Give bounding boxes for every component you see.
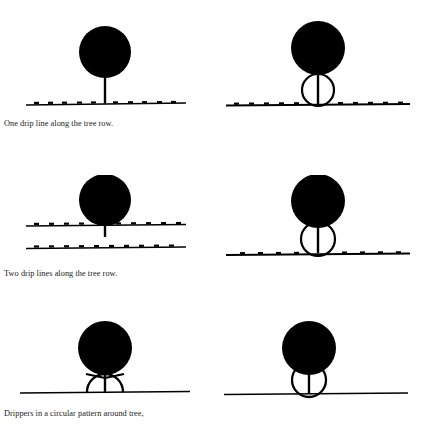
caption-line: Two drip lines along the tree row. bbox=[4, 269, 117, 278]
panel-drippers-flexion-lateral: Drippers in a circular pattern around tr… bbox=[212, 175, 424, 320]
caption-line: One drip line along the tree row. bbox=[4, 119, 113, 128]
tree-canopy-icon bbox=[79, 175, 131, 226]
panel-caption: One drip line along the tree row. bbox=[4, 118, 210, 129]
lateral-line-icon bbox=[224, 393, 408, 395]
tree-canopy-icon bbox=[282, 321, 336, 375]
lateral-line-icon bbox=[226, 254, 410, 256]
diagram-drippers-flexion-lateral bbox=[212, 175, 424, 265]
panel-caption: Drippers in a circular pattern around tr… bbox=[4, 408, 210, 419]
panel-micro-sprinklers: Micro sprinklers around tree, connected … bbox=[212, 320, 424, 429]
caption-line: Drippers in a circular pattern around tr… bbox=[4, 409, 144, 418]
diagram-micro-sprinklers bbox=[212, 320, 424, 408]
diagram-drippers-circular-arc bbox=[0, 320, 212, 408]
diagram-drippers-circular-two-points bbox=[212, 0, 424, 115]
panel-caption: Two drip lines along the tree row. bbox=[4, 268, 210, 279]
lateral-line-icon bbox=[20, 392, 190, 394]
tree-canopy-icon bbox=[291, 175, 345, 228]
tree-canopy-icon bbox=[78, 321, 132, 375]
panel-drippers-circular-arc: Drippers in a circular pattern around tr… bbox=[0, 320, 212, 429]
tree-canopy-icon bbox=[291, 21, 345, 75]
tree-canopy-icon bbox=[79, 26, 131, 78]
panel-two-drip-lines: Two drip lines along the tree row. bbox=[0, 175, 212, 320]
irrigation-layout-figure: One drip line along the tree row. bbox=[0, 0, 424, 429]
diagram-two-drip-lines bbox=[0, 175, 212, 265]
panel-drippers-circular-two-points: Drippers in circular pattern around tree… bbox=[212, 0, 424, 175]
panel-one-drip-line: One drip line along the tree row. bbox=[0, 0, 212, 175]
diagram-one-drip-line bbox=[0, 0, 212, 115]
